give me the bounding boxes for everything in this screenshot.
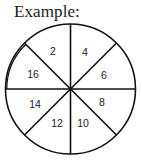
sector-label-10: 10 [77,117,89,129]
sector-label-8: 8 [99,96,105,108]
sector-label-6: 6 [101,69,107,81]
sectored-wheel-diagram: 2 4 6 8 10 12 14 16 [0,0,142,160]
sector-label-14: 14 [29,98,41,110]
sector-label-4: 4 [82,46,88,58]
sector-label-12: 12 [51,117,63,129]
sector-label-16: 16 [27,68,39,80]
sector-label-2: 2 [50,45,56,57]
